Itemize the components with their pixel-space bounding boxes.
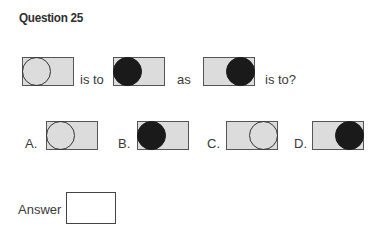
figure-graphic — [226, 121, 278, 150]
is-to-text-1: is to — [80, 72, 104, 87]
stem-figure-2 — [113, 57, 165, 86]
option-b-figure[interactable] — [137, 121, 189, 150]
is-to-question-text: is to? — [265, 72, 296, 87]
figure-graphic — [137, 121, 189, 150]
outline-circle-icon — [47, 122, 75, 150]
figure-graphic — [46, 121, 98, 150]
figure-graphic — [113, 57, 165, 86]
figure-graphic — [203, 57, 255, 86]
figure-graphic — [22, 57, 74, 86]
option-d-label: D. — [294, 136, 307, 151]
option-b-label: B. — [118, 136, 130, 151]
outline-circle-icon — [23, 58, 51, 86]
filled-circle-icon — [336, 122, 364, 150]
stem-figure-1 — [22, 57, 74, 86]
option-a-figure[interactable] — [46, 121, 98, 150]
option-c-figure[interactable] — [226, 121, 278, 150]
outline-circle-icon — [250, 122, 278, 150]
filled-circle-icon — [227, 58, 255, 86]
filled-circle-icon — [138, 122, 166, 150]
question-title: Question 25 — [19, 10, 83, 25]
option-a-label: A. — [25, 136, 37, 151]
filled-circle-icon — [114, 58, 142, 86]
option-d-figure[interactable] — [312, 121, 364, 150]
answer-label: Answer — [18, 202, 61, 217]
figure-graphic — [312, 121, 364, 150]
option-c-label: C. — [207, 136, 220, 151]
answer-input-box[interactable] — [66, 192, 116, 224]
as-text: as — [177, 72, 191, 87]
stem-figure-3 — [203, 57, 255, 86]
